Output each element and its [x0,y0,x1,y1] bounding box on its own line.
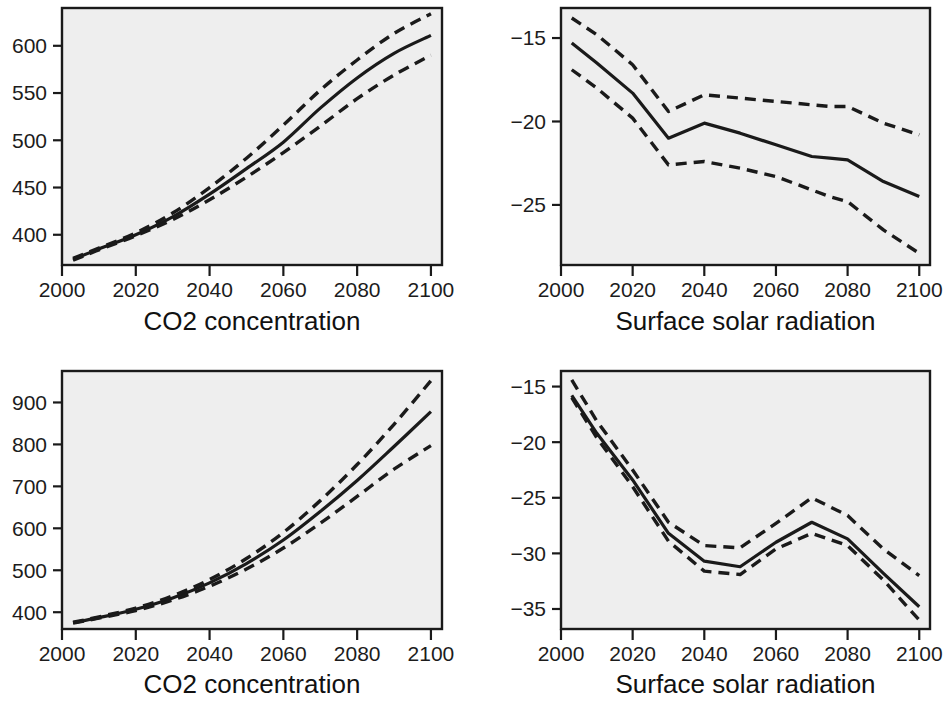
y-axis-tick-label: 600 [12,34,47,57]
panel-top-left: 400450500550600200020202040206020802100C… [0,0,475,351]
x-axis-tick-label: 2080 [824,278,871,301]
x-axis-tick-label: 2060 [753,642,800,665]
x-axis-tick-label: 2080 [334,278,381,301]
x-axis-tick-label: 2100 [896,278,943,301]
axis-title: CO2 concentration [144,669,361,699]
x-axis-tick-label: 2100 [408,278,455,301]
y-axis-tick-label: 700 [12,475,47,498]
axis-title: CO2 concentration [144,306,361,336]
y-axis-tick-label: 500 [12,129,47,152]
panel-top-right: −15−20−25200020202040206020802100Surface… [475,0,950,351]
y-axis-tick-label: −15 [510,26,546,49]
plot-background [62,8,442,265]
panel-bottom-right: −15−20−25−30−35200020202040206020802100S… [475,351,950,703]
y-axis-tick-label: 450 [12,176,47,199]
y-axis-tick-label: −25 [510,486,546,509]
x-axis-tick-label: 2100 [896,642,943,665]
y-axis-tick-label: −25 [510,193,546,216]
plot-background [561,371,930,629]
x-axis-tick-label: 2060 [260,642,307,665]
plot-background [62,371,442,629]
figure-container: 400450500550600200020202040206020802100C… [0,0,950,703]
x-axis-tick-label: 2040 [186,642,233,665]
x-axis-tick-label: 2020 [112,642,159,665]
x-axis-tick-label: 2060 [260,278,307,301]
x-axis-tick-label: 2080 [334,642,381,665]
chart-top-right: −15−20−25200020202040206020802100Surface… [475,0,950,351]
y-axis-tick-label: 550 [12,81,47,104]
x-axis-tick-label: 2000 [538,642,585,665]
y-axis-tick-label: 900 [12,391,47,414]
x-axis-tick-label: 2000 [39,642,86,665]
y-axis-tick-label: 500 [12,559,47,582]
y-axis-tick-label: −20 [510,431,546,454]
x-axis-tick-label: 2000 [39,278,86,301]
x-axis-tick-label: 2060 [753,278,800,301]
axis-title: Surface solar radiation [615,669,875,699]
y-axis-tick-label: −30 [510,542,546,565]
chart-bottom-right: −15−20−25−30−35200020202040206020802100S… [475,351,950,703]
y-axis-tick-label: 800 [12,433,47,456]
y-axis-tick-label: −15 [510,375,546,398]
y-axis-tick-label: −20 [510,110,546,133]
y-axis-tick-label: 400 [12,601,47,624]
x-axis-tick-label: 2040 [681,278,728,301]
x-axis-tick-label: 2040 [681,642,728,665]
chart-top-left: 400450500550600200020202040206020802100C… [0,0,475,351]
y-axis-tick-label: 400 [12,223,47,246]
x-axis-tick-label: 2020 [112,278,159,301]
x-axis-tick-label: 2020 [609,642,656,665]
x-axis-tick-label: 2100 [408,642,455,665]
panel-bottom-left: 4005006007008009002000202020402060208021… [0,351,475,703]
x-axis-tick-label: 2020 [609,278,656,301]
y-axis-tick-label: 600 [12,517,47,540]
x-axis-tick-label: 2000 [538,278,585,301]
axis-title: Surface solar radiation [615,306,875,336]
x-axis-tick-label: 2080 [824,642,871,665]
chart-bottom-left: 4005006007008009002000202020402060208021… [0,351,475,703]
y-axis-tick-label: −35 [510,597,546,620]
x-axis-tick-label: 2040 [186,278,233,301]
